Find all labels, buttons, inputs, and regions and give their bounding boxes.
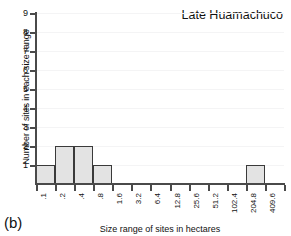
gridline <box>36 89 284 90</box>
x-tick-label: .1 <box>40 193 48 200</box>
x-tick-label: 6.4 <box>154 193 162 204</box>
y-tick-label: 8 <box>17 28 28 37</box>
x-tick-label: 409.6 <box>269 193 277 213</box>
gridline <box>36 51 284 52</box>
y-tick-mark <box>30 165 36 167</box>
x-axis-label: Size range of sites in hectares <box>36 224 284 234</box>
y-tick-label: 4 <box>17 104 28 113</box>
x-tick-mark <box>112 185 114 191</box>
y-tick-mark <box>30 51 36 53</box>
x-tick-mark <box>208 185 210 191</box>
gridline <box>36 32 284 33</box>
y-tick-label: 6 <box>17 66 28 75</box>
x-tick-mark <box>284 185 286 191</box>
y-tick-mark <box>30 70 36 72</box>
x-tick-label: .8 <box>97 193 105 200</box>
bar <box>74 146 93 184</box>
x-tick-label: 1.6 <box>116 193 124 204</box>
x-tick-label: 12.8 <box>174 193 182 209</box>
x-tick-label: 51.2 <box>212 193 220 209</box>
y-tick-mark <box>30 13 36 15</box>
y-tick-mark <box>30 146 36 148</box>
y-tick-label: 9 <box>17 9 28 18</box>
x-tick-mark <box>36 185 38 191</box>
gridline <box>36 13 284 14</box>
bar <box>55 146 74 184</box>
x-tick-mark <box>150 185 152 191</box>
bar <box>93 165 112 184</box>
x-tick-label: 102.4 <box>231 193 239 213</box>
x-tick-mark <box>246 185 248 191</box>
gridline <box>36 70 284 71</box>
x-tick-mark <box>189 185 191 191</box>
y-tick-label: 7 <box>17 47 28 56</box>
y-tick-label: 1 <box>17 161 28 170</box>
x-tick-mark <box>131 185 133 191</box>
bar <box>36 165 55 184</box>
x-tick-mark <box>265 185 267 191</box>
x-tick-mark <box>74 185 76 191</box>
gridline <box>36 108 284 109</box>
gridline <box>36 127 284 128</box>
y-tick-mark <box>30 89 36 91</box>
x-tick-mark <box>227 185 229 191</box>
figure-panel: Number of sites in each size range Late … <box>0 0 291 236</box>
x-tick-label: 204.8 <box>250 193 258 213</box>
y-tick-mark <box>30 127 36 129</box>
y-axis-label: Number of sites in each size range <box>21 17 31 177</box>
panel-label: (b) <box>4 214 22 231</box>
y-tick-mark <box>30 108 36 110</box>
y-axis-line <box>35 12 37 185</box>
y-tick-mark <box>30 32 36 34</box>
x-tick-label: .4 <box>78 193 86 200</box>
y-tick-label: 2 <box>17 142 28 151</box>
x-tick-mark <box>55 185 57 191</box>
x-tick-mark <box>93 185 95 191</box>
x-tick-label: 3.2 <box>135 193 143 204</box>
plot-area <box>36 13 284 184</box>
y-tick-label: 3 <box>17 123 28 132</box>
x-tick-mark <box>170 185 172 191</box>
bar <box>246 165 265 184</box>
x-tick-label: .2 <box>59 193 67 200</box>
y-tick-label: 5 <box>17 85 28 94</box>
x-tick-label: 25.6 <box>193 193 201 209</box>
